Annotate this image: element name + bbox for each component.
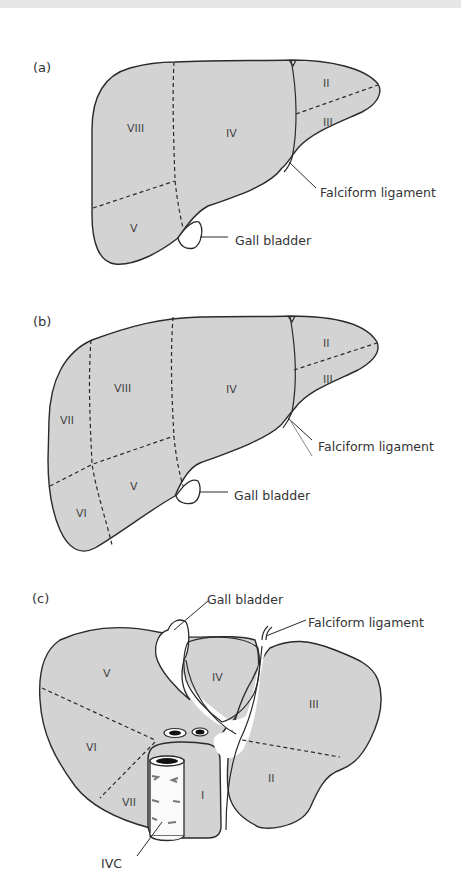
hepatic-artery-lumen	[196, 730, 205, 735]
segment-label: VIII	[114, 382, 131, 395]
ivc-label: IVC	[101, 856, 122, 871]
segment-label: VI	[76, 507, 87, 520]
portal-vein-lumen	[169, 731, 181, 736]
segment-label: V	[130, 480, 138, 493]
ivc-bottom-rim	[150, 836, 184, 841]
segment-label: IV	[226, 127, 237, 140]
segment-label: I	[201, 789, 204, 802]
segment-label: VII	[122, 796, 136, 809]
segment-label: III	[309, 698, 319, 711]
segment-label: V	[130, 222, 138, 235]
segment-label: II	[323, 337, 330, 350]
gall-bladder-label: Gall bladder	[235, 233, 312, 248]
panel-a-label: (a)	[33, 60, 51, 75]
segment-label: III	[323, 116, 333, 129]
ivc-cylinder	[150, 756, 184, 841]
segment-label: III	[323, 373, 333, 386]
falciform-ligament-label: Falciform ligament	[308, 615, 424, 630]
segment-label: VIII	[127, 122, 144, 135]
panel-a-falciform-leader	[289, 162, 316, 188]
segment-label: IV	[226, 383, 237, 396]
panel-c-label: (c)	[32, 591, 49, 606]
segment-label: II	[323, 77, 330, 90]
panel-c-gallbladder-leader	[174, 601, 208, 630]
ivc-lumen	[156, 758, 178, 764]
segment-label: VI	[86, 741, 97, 754]
segment-label: II	[268, 772, 275, 785]
ivc-body	[150, 760, 184, 836]
panel-b-label: (b)	[33, 314, 51, 329]
panel-c: (c)	[32, 591, 424, 871]
panel-c-falciform-leader	[266, 620, 306, 636]
panel-b-falciform-leader-2	[290, 420, 312, 456]
segment-label: IV	[212, 671, 223, 684]
gall-bladder-label: Gall bladder	[207, 592, 284, 607]
segment-label: VII	[60, 414, 74, 427]
panel-b: (b) VII VIII IV V VI II III Falciform li…	[33, 314, 434, 551]
falciform-ligament-label: Falciform ligament	[320, 185, 436, 200]
panel-c-falciform	[262, 626, 272, 640]
falciform-ligament-label: Falciform ligament	[318, 439, 434, 454]
panel-a: (a) VIII IV V II III Falciform ligament …	[33, 60, 436, 264]
panel-b-liver-outline	[48, 316, 378, 551]
gall-bladder-label: Gall bladder	[234, 488, 311, 503]
liver-segments-diagram: (a) VIII IV V II III Falciform ligament …	[0, 0, 461, 871]
segment-label: V	[103, 667, 111, 680]
